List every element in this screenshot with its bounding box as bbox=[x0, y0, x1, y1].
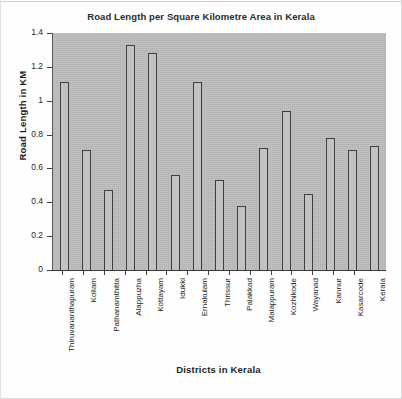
bar-slot bbox=[253, 33, 275, 270]
x-axis-label: Kerala bbox=[378, 278, 387, 301]
x-axis-label-slot: Pathanamthitta bbox=[96, 278, 118, 360]
x-axis-tick-mark bbox=[187, 271, 188, 275]
bar-slot bbox=[142, 33, 164, 270]
bar-slot bbox=[75, 33, 97, 270]
y-axis-tick-label: 0.6 bbox=[31, 162, 43, 172]
bar[interactable] bbox=[104, 190, 113, 270]
bar[interactable] bbox=[370, 146, 379, 270]
x-axis-tick-slot bbox=[281, 271, 302, 276]
x-axis-label-slot: Thiruvananthapuram bbox=[52, 278, 74, 360]
bar-slot bbox=[53, 33, 75, 270]
x-axis-tick-slot bbox=[52, 271, 73, 276]
figure-edge-top bbox=[0, 1, 402, 2]
x-axis-labels: ThiruvananthapuramKollamPathanamthittaAl… bbox=[52, 278, 385, 360]
chart-title: Road Length per Square Kilometre Area in… bbox=[0, 11, 402, 22]
bar-slot bbox=[120, 33, 142, 270]
x-axis-tick-mark bbox=[229, 271, 230, 275]
bar[interactable] bbox=[326, 138, 335, 270]
x-axis-tick-mark bbox=[104, 271, 105, 275]
x-axis-tick-slot bbox=[177, 271, 198, 276]
y-axis-tick-label: 0 bbox=[38, 264, 43, 274]
x-axis-tick-slot bbox=[302, 271, 323, 276]
x-axis-tick-slot bbox=[219, 271, 240, 276]
bar-slot bbox=[319, 33, 341, 270]
x-axis-label-slot: Kollam bbox=[74, 278, 96, 360]
x-axis-label-slot: Wayanad bbox=[296, 278, 318, 360]
bar[interactable] bbox=[126, 45, 135, 270]
x-axis-tick-slot bbox=[198, 271, 219, 276]
x-axis-tick-slot bbox=[135, 271, 156, 276]
x-axis-tick-mark bbox=[166, 271, 167, 275]
x-axis-tick-mark bbox=[291, 271, 292, 275]
x-axis-tick-mark bbox=[250, 271, 251, 275]
bar-slot bbox=[364, 33, 386, 270]
x-axis-tick-slot bbox=[114, 271, 135, 276]
x-axis-label-slot: Kottayam bbox=[141, 278, 163, 360]
x-axis-tick-slot bbox=[323, 271, 344, 276]
bar[interactable] bbox=[148, 53, 157, 270]
x-axis-tick-slot-end bbox=[364, 271, 385, 276]
x-axis-tick-slot bbox=[94, 271, 115, 276]
bar-slot bbox=[208, 33, 230, 270]
bar-slot bbox=[164, 33, 186, 270]
x-axis-label-slot: Malappuram bbox=[252, 278, 274, 360]
x-axis-label-slot: Palakkad bbox=[230, 278, 252, 360]
x-axis-label-slot: Alappuzha bbox=[119, 278, 141, 360]
y-axis-tick-label: 1.4 bbox=[31, 27, 43, 37]
bar[interactable] bbox=[237, 206, 246, 270]
x-axis-tick-mark bbox=[312, 271, 313, 275]
x-axis-tick-slot bbox=[156, 271, 177, 276]
plot-area bbox=[52, 33, 386, 271]
y-axis-tick-label: 0.4 bbox=[31, 196, 43, 206]
bar[interactable] bbox=[259, 148, 268, 270]
x-axis-title: Districts in Kerala bbox=[52, 364, 385, 375]
bar[interactable] bbox=[282, 111, 291, 270]
x-axis-label-slot: Kasarcode bbox=[341, 278, 363, 360]
y-axis-tick-label: 1.2 bbox=[31, 61, 43, 71]
y-axis-title: Road Length in KM bbox=[17, 31, 28, 201]
y-axis-tick-label: 0.2 bbox=[31, 230, 43, 240]
x-axis-tick-mark bbox=[271, 271, 272, 275]
y-axis-tick-label: 1 bbox=[38, 95, 43, 105]
x-axis-label-slot: Kozhikode bbox=[274, 278, 296, 360]
bar[interactable] bbox=[304, 194, 313, 270]
bar-series bbox=[53, 33, 386, 270]
x-axis-label-slot: Kannur bbox=[318, 278, 340, 360]
bar[interactable] bbox=[215, 180, 224, 270]
x-axis-tick-slot bbox=[239, 271, 260, 276]
x-axis-tick-mark bbox=[333, 271, 334, 275]
bar[interactable] bbox=[82, 150, 91, 270]
bar-slot bbox=[97, 33, 119, 270]
x-axis-tick-slot bbox=[73, 271, 94, 276]
x-axis-tick-slot bbox=[343, 271, 364, 276]
x-axis-tick-slot bbox=[260, 271, 281, 276]
bar[interactable] bbox=[348, 150, 357, 270]
x-axis-label-slot: Kerala bbox=[363, 278, 385, 360]
bar-slot bbox=[275, 33, 297, 270]
bar-slot bbox=[231, 33, 253, 270]
x-axis-tick-mark bbox=[125, 271, 126, 275]
chart-figure: Road Length per Square Kilometre Area in… bbox=[0, 0, 402, 399]
x-axis-label-slot: Ernakulam bbox=[185, 278, 207, 360]
x-axis-tick-mark bbox=[83, 271, 84, 275]
x-axis-label-slot: Idukki bbox=[163, 278, 185, 360]
x-axis-tick-mark bbox=[208, 271, 209, 275]
x-axis-label-slot: Thrissur bbox=[207, 278, 229, 360]
x-axis-tick-mark bbox=[62, 271, 63, 275]
bar[interactable] bbox=[60, 82, 69, 270]
bar-slot bbox=[186, 33, 208, 270]
bar[interactable] bbox=[171, 175, 180, 270]
y-axis-tick-label: 0.8 bbox=[31, 129, 43, 139]
x-axis-tick-mark bbox=[146, 271, 147, 275]
bar-slot bbox=[297, 33, 319, 270]
bar-slot bbox=[342, 33, 364, 270]
x-axis-tick-mark bbox=[354, 271, 355, 275]
bar[interactable] bbox=[193, 82, 202, 270]
x-axis-tickmarks bbox=[52, 271, 385, 276]
